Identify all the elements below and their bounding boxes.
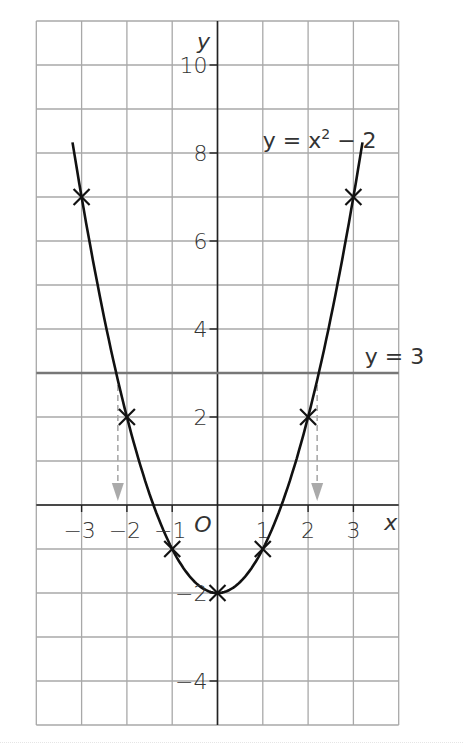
- curve-label: y = x2 − 2: [263, 126, 377, 153]
- y-tick-label: 6: [194, 229, 208, 254]
- axis-labels: 108642−2−4−3−2−1123Oxyy = x2 − 2y = 3: [63, 29, 424, 694]
- y-tick-label: −4: [175, 669, 207, 694]
- x-tick-label: 3: [346, 518, 360, 543]
- x-tick-label: 2: [301, 518, 315, 543]
- y-tick-label: 4: [194, 317, 208, 342]
- y-axis-label: y: [196, 29, 211, 54]
- x-tick-label: −1: [154, 518, 186, 543]
- origin-label: O: [194, 512, 211, 537]
- x-tick-label: −2: [109, 518, 141, 543]
- x-tick-label: −3: [63, 518, 95, 543]
- y-tick-label: 10: [180, 53, 208, 78]
- y-tick-label: 8: [194, 141, 208, 166]
- y-tick-label: −2: [175, 581, 207, 606]
- x-tick-label: 1: [256, 518, 270, 543]
- page-divider: [0, 742, 463, 743]
- arrow-head-icon: [112, 483, 124, 501]
- y-tick-label: 2: [194, 405, 208, 430]
- hline-label: y = 3: [365, 344, 424, 369]
- x-axis-label: x: [383, 510, 398, 535]
- quadratic-graph: 108642−2−4−3−2−1123Oxyy = x2 − 2y = 3: [0, 0, 463, 755]
- arrow-head-icon: [311, 483, 323, 501]
